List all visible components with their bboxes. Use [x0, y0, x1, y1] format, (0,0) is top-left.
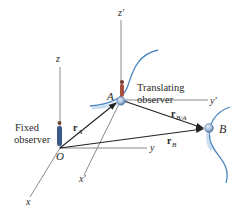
- particle-B: [205, 124, 214, 133]
- fixed-observer-figure: [57, 121, 62, 146]
- label-rB-sub: B: [172, 141, 177, 149]
- path-of-B: [209, 107, 230, 183]
- label-point-B: B: [219, 122, 227, 136]
- translating-observer-label-line1: Translating: [137, 82, 185, 93]
- label-z: z: [55, 53, 60, 64]
- label-rA: r A: [73, 122, 83, 136]
- fixed-observer-label-line1: Fixed: [15, 122, 40, 133]
- label-x: x: [25, 196, 31, 207]
- label-y-prime: y': [209, 95, 217, 106]
- translating-observer-figure: [120, 80, 124, 97]
- label-x-prime: x': [78, 173, 86, 184]
- label-origin-O: O: [56, 150, 64, 162]
- particle-A: [117, 97, 125, 105]
- translating-observer-label-line2: observer: [137, 94, 174, 105]
- label-z-prime: z': [117, 7, 125, 18]
- label-rB: r B: [167, 135, 177, 149]
- fixed-frame-axes: [30, 67, 147, 197]
- fixed-observer-label-line2: observer: [14, 134, 51, 145]
- x-prime-axis: [84, 100, 121, 175]
- label-rA-sub: A: [77, 128, 83, 136]
- label-rBA: r B/A: [171, 108, 187, 122]
- label-point-A: A: [106, 90, 114, 102]
- label-y: y: [149, 142, 155, 153]
- relative-motion-diagram: z y x z' y' x' O A B Fixed observer Tran…: [0, 0, 250, 215]
- label-rBA-sub: B/A: [176, 114, 187, 122]
